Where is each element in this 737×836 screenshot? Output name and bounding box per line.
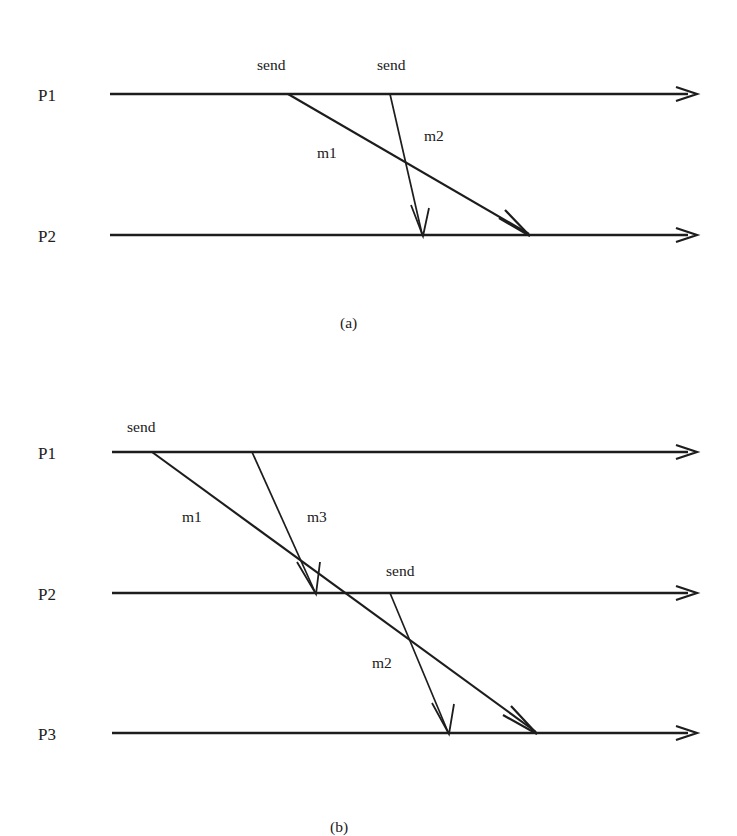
process-label-p3-b: P3 [38, 725, 56, 744]
process-label-p1-b: P1 [38, 444, 56, 463]
message-m1-a: m1 [288, 94, 530, 236]
message-label-m3-b: m3 [307, 508, 327, 525]
process-label-p2-a: P2 [38, 227, 56, 246]
message-line-m1-a [288, 94, 529, 234]
event-label-send-b-1: send [127, 418, 156, 435]
timeline-p3-b: P3 [38, 725, 697, 744]
figure-canvas: P1 P2 m1 m2 send send [0, 0, 737, 836]
message-label-m2-a: m2 [424, 127, 444, 144]
timeline-p1-a: P1 [38, 86, 697, 105]
timeline-p2-a: P2 [38, 227, 697, 246]
timeline-p1-b: P1 [38, 444, 697, 463]
process-label-p1-a: P1 [38, 86, 56, 105]
event-label-send-a-1: send [257, 56, 286, 73]
diagram-b: P1 P2 P3 m1 [38, 418, 697, 836]
timeline-p2-b: P2 [38, 585, 697, 604]
message-m2-a: m2 [390, 94, 444, 236]
event-label-send-b-2: send [386, 562, 415, 579]
message-label-m2-b: m2 [372, 654, 392, 671]
diagram-a: P1 P2 m1 m2 send send [38, 56, 697, 332]
event-label-send-a-2: send [377, 56, 406, 73]
message-arrowhead-m2-a [411, 205, 429, 236]
message-line-m2-a [390, 94, 422, 234]
message-label-m1-b: m1 [182, 508, 202, 525]
process-label-p2-b: P2 [38, 585, 56, 604]
message-label-m1-a: m1 [317, 144, 337, 161]
message-sequence-diagram-svg: P1 P2 m1 m2 send send [0, 0, 737, 836]
caption-b: (b) [330, 818, 348, 836]
message-line-m3-b [252, 452, 315, 592]
message-arrowhead-m1-a [499, 210, 530, 236]
caption-a: (a) [340, 314, 357, 332]
